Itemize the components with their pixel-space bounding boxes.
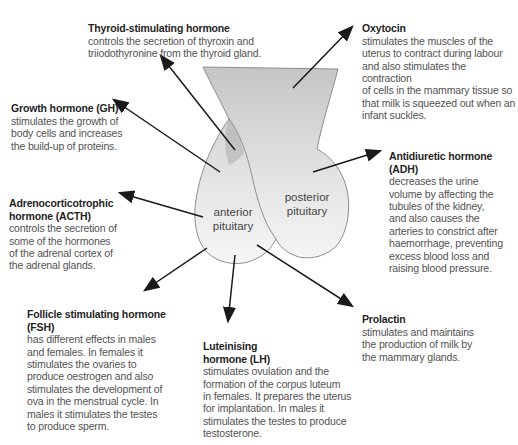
annotation-lh: Luteinising hormone (LH)stimulates ovula… <box>203 328 351 440</box>
annotation-oxytocin-title: Oxytocin <box>362 22 518 34</box>
annotation-prolactin-title: Prolactin <box>362 313 474 325</box>
arrow-lh <box>228 255 235 321</box>
annotation-tsh-title: Thyroid-stimulating hormone <box>88 22 261 34</box>
annotation-oxytocin: Oxytocinstimulates the muscles of the ut… <box>362 10 518 122</box>
annotation-acth: Adrenocorticotrophic hormone (ACTH)contr… <box>9 185 117 272</box>
annotation-acth-title: Adrenocorticotrophic hormone (ACTH) <box>9 197 117 222</box>
annotation-acth-body: controls the secretion of some of the ho… <box>9 222 117 271</box>
pituitary-diagram: anterior pituitary posterior pituitary T… <box>0 0 518 445</box>
annotation-lh-title: Luteinising hormone (LH) <box>203 340 351 365</box>
posterior-pituitary-label: posterior pituitary <box>265 191 349 218</box>
annotation-lh-body: stimulates ovulation and the formation o… <box>203 365 351 439</box>
annotation-fsh-body: has different effects in males and femal… <box>27 333 162 432</box>
arrow-fsh <box>145 248 207 290</box>
annotation-prolactin: Prolactinstimulates and maintains the pr… <box>362 301 474 363</box>
pituitary-gland-shape <box>195 67 349 264</box>
annotation-oxytocin-body: stimulates the muscles of the uterus to … <box>362 35 515 121</box>
annotation-fsh: Follicle stimulating hormone (FSH)has di… <box>27 296 166 432</box>
annotation-gh-title: Growth hormone (GH) <box>11 102 122 114</box>
annotation-fsh-title: Follicle stimulating hormone (FSH) <box>27 308 166 333</box>
annotation-gh: Growth hormone (GH)stimulates the growth… <box>11 90 122 152</box>
annotation-tsh-body: controls the secretion of thyroxin and t… <box>88 35 261 59</box>
annotation-adh-body: decreases the urine volume by affecting … <box>389 175 503 274</box>
annotation-adh: Antidiuretic hormone (ADH)decreases the … <box>389 138 503 274</box>
anterior-pituitary-label: anterior pituitary <box>191 206 275 233</box>
annotation-tsh: Thyroid-stimulating hormonecontrols the … <box>88 10 261 60</box>
annotation-prolactin-body: stimulates and maintains the production … <box>362 326 474 363</box>
annotation-adh-title: Antidiuretic hormone (ADH) <box>389 150 503 175</box>
annotation-gh-body: stimulates the growth of body cells and … <box>11 115 122 152</box>
